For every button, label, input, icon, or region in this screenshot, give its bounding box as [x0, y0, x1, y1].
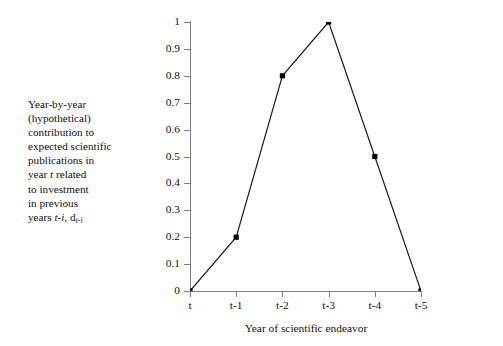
- y-axis-tick-label: 0.9: [146, 43, 180, 54]
- x-axis-line: [190, 291, 422, 292]
- data-line: [190, 22, 421, 291]
- data-point-marker: [418, 288, 421, 291]
- x-axis-tick: [190, 292, 191, 297]
- y-axis-tick-label: 0.7: [146, 97, 180, 108]
- x-axis-tick-label: t-5: [398, 300, 444, 311]
- x-axis-tick-label: t-4: [352, 300, 398, 311]
- y-axis-tick-label: 0.3: [146, 204, 180, 215]
- x-axis-tick-label: t-3: [306, 300, 352, 311]
- caption-line-5: publications in: [28, 153, 146, 167]
- caption-line-9-mid: , d: [64, 211, 75, 223]
- y-axis-tick-label: 0: [146, 285, 180, 296]
- figure-container: Year-by-year (hypothetical) contribution…: [0, 0, 503, 346]
- caption-line-3: contribution to: [28, 125, 146, 139]
- y-axis-tick-label: 0.8: [146, 70, 180, 81]
- caption-line-4: expected scientific: [28, 139, 146, 153]
- x-axis-title: Year of scientific endeavor: [190, 322, 422, 334]
- caption-line-9: years t-i, dt-i: [28, 210, 146, 228]
- caption-line-6: year t related: [28, 167, 146, 181]
- caption-line-1: Year-by-year: [28, 97, 146, 111]
- caption-line-9-italic: t-i: [54, 211, 64, 223]
- line-series-svg: [190, 22, 421, 291]
- caption-line-9-prefix: years: [28, 211, 54, 223]
- x-axis-tick: [421, 292, 422, 297]
- caption-line-9-subscript: t-i: [76, 216, 83, 225]
- y-axis-tick-label: 0.6: [146, 124, 180, 135]
- data-point-marker: [372, 154, 377, 159]
- x-axis-tick: [236, 292, 237, 297]
- plot-area: [190, 22, 421, 291]
- data-point-marker: [280, 73, 285, 78]
- data-point-marker: [234, 235, 239, 240]
- y-axis-tick-label: 0.2: [146, 231, 180, 242]
- figure-caption: Year-by-year (hypothetical) contribution…: [28, 97, 146, 228]
- x-axis-tick-label: t: [167, 300, 213, 311]
- data-point-marker: [190, 288, 193, 291]
- x-axis-tick: [375, 292, 376, 297]
- x-axis-tick: [282, 292, 283, 297]
- y-axis-tick-label: 0.5: [146, 151, 180, 162]
- data-point-marker: [326, 22, 331, 25]
- caption-line-6-suffix: related: [53, 168, 86, 180]
- y-axis-tick-label: 0.1: [146, 258, 180, 269]
- caption-line-8: in previous: [28, 196, 146, 210]
- caption-line-7: to investment: [28, 182, 146, 196]
- y-axis-tick-label: 1: [146, 16, 180, 27]
- caption-line-2: (hypothetical): [28, 111, 146, 125]
- x-axis-tick: [329, 292, 330, 297]
- y-axis-tick-label: 0.4: [146, 177, 180, 188]
- x-axis-tick-label: t-2: [259, 300, 305, 311]
- x-axis-tick-label: t-1: [213, 300, 259, 311]
- caption-line-6-prefix: year: [28, 168, 50, 180]
